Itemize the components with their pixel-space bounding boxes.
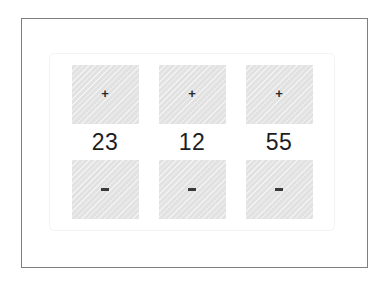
plus-icon: +: [101, 87, 109, 100]
plus-icon: +: [188, 87, 196, 100]
counter-value: 55: [266, 124, 293, 160]
app-frame: + 23 + 12 +: [21, 18, 368, 268]
decrement-button[interactable]: [72, 160, 139, 219]
minus-icon: [188, 188, 196, 191]
plus-icon: +: [275, 87, 283, 100]
counter-value: 12: [179, 124, 206, 160]
counter-value: 23: [92, 124, 119, 160]
counter-group: + 23 + 12 +: [50, 54, 334, 230]
minus-icon: [275, 188, 283, 191]
counter-panel: + 23 + 12 +: [49, 53, 335, 231]
counter-column: + 12: [159, 65, 226, 219]
decrement-button[interactable]: [246, 160, 313, 219]
minus-icon: [101, 188, 109, 191]
counter-column: + 23: [72, 65, 139, 219]
increment-button[interactable]: +: [246, 65, 313, 124]
decrement-button[interactable]: [159, 160, 226, 219]
counter-column: + 55: [246, 65, 313, 219]
increment-button[interactable]: +: [72, 65, 139, 124]
increment-button[interactable]: +: [159, 65, 226, 124]
